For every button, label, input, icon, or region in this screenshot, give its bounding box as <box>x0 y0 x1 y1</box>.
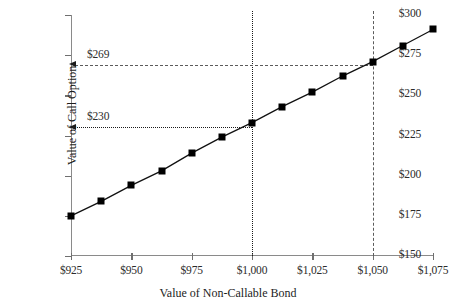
x-tick-label: $975 <box>181 264 203 276</box>
x-tick-label: $950 <box>120 264 142 276</box>
data-point <box>249 119 256 126</box>
data-point <box>68 212 75 219</box>
data-point <box>98 198 105 205</box>
x-axis-title: Value of Non-Callable Bond <box>0 286 456 301</box>
data-point <box>279 103 286 110</box>
data-point <box>218 134 225 141</box>
data-point <box>188 150 195 157</box>
x-tick <box>433 253 434 260</box>
plot-area: $150$175$200$225$250$275$300 $925$950$97… <box>71 15 433 256</box>
x-tick-label: $1,050 <box>357 264 387 276</box>
data-point <box>399 42 406 49</box>
data-point <box>309 89 316 96</box>
x-tick-label: $1,075 <box>418 264 448 276</box>
x-tick-label: $1,000 <box>237 264 267 276</box>
y-axis-title: Value of Call Option <box>65 36 80 196</box>
x-tick-label: $925 <box>60 264 82 276</box>
data-point <box>339 73 346 80</box>
x-tick-label: $1,025 <box>297 264 327 276</box>
series-line <box>71 15 433 256</box>
data-point <box>369 58 376 65</box>
data-point <box>430 26 437 33</box>
data-point <box>158 167 165 174</box>
chart-figure: $150$175$200$225$250$275$300 $925$950$97… <box>0 0 456 305</box>
data-point <box>128 182 135 189</box>
